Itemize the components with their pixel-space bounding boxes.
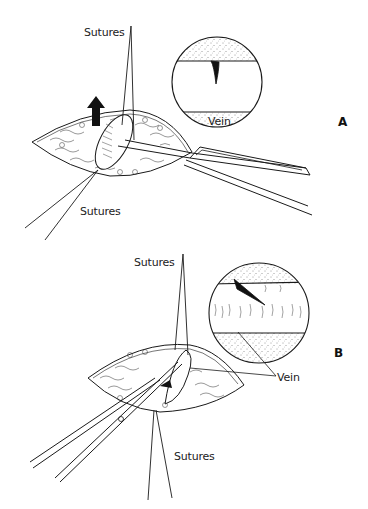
surgical-illustration <box>0 0 368 509</box>
upward-arrow-icon <box>87 96 105 126</box>
panel-b-sutures-top-label: Sutures <box>134 256 175 269</box>
panel-b-letter: B <box>334 346 343 360</box>
panel-a-sutures-bottom-label: Sutures <box>80 205 121 218</box>
panel-b-sutures-bottom-label: Sutures <box>174 450 215 463</box>
panel-a-drawing <box>25 26 312 240</box>
panel-a-vein-inset-label: Vein <box>208 115 231 128</box>
panel-a-sutures-top-label: Sutures <box>84 26 125 39</box>
panel-a-letter: A <box>338 115 347 129</box>
panel-b-drawing <box>30 254 315 500</box>
panel-b-vein-label: Vein <box>277 371 300 384</box>
